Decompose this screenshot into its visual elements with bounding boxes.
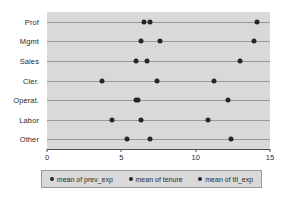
category-gridline xyxy=(47,22,270,23)
legend-entry: mean of prev_exp xyxy=(50,176,113,183)
x-axis-tick xyxy=(47,149,48,152)
category-gridline xyxy=(47,139,270,140)
legend-label: mean of tenure xyxy=(136,176,183,183)
x-axis-tick-label: 5 xyxy=(119,153,123,162)
x-axis-tick xyxy=(270,149,271,152)
chart-legend: mean of prev_expmean of tenuremean of tt… xyxy=(41,170,262,188)
legend-label: mean of ttl_exp xyxy=(205,176,253,183)
y-axis-tick-label: Mgmt xyxy=(20,37,39,46)
legend-label: mean of prev_exp xyxy=(57,176,113,183)
category-gridline xyxy=(47,41,270,42)
y-axis-tick-label: Prof xyxy=(25,17,39,26)
category-gridline xyxy=(47,120,270,121)
legend-marker-icon xyxy=(198,177,202,181)
y-axis-tick-label: Sales xyxy=(20,56,39,65)
x-axis-line xyxy=(47,149,270,150)
x-axis-tick-label: 0 xyxy=(45,153,49,162)
x-axis-tick-label: 10 xyxy=(191,153,199,162)
category-gridline xyxy=(47,61,270,62)
category-gridline xyxy=(47,100,270,101)
legend-marker-icon xyxy=(50,177,54,181)
legend-marker-icon xyxy=(129,177,133,181)
legend-entry: mean of ttl_exp xyxy=(198,176,253,183)
dot-chart-figure: ProfMgmtSalesCler.Operat.LaborOther mean… xyxy=(0,0,303,197)
y-axis-tick-label: Other xyxy=(20,135,39,144)
x-axis-tick xyxy=(121,149,122,152)
category-gridline xyxy=(47,81,270,82)
x-axis-tick xyxy=(195,149,196,152)
y-axis-tick-label: Operat. xyxy=(13,96,39,105)
y-axis-tick-label: Cler. xyxy=(23,76,39,85)
legend-entry: mean of tenure xyxy=(129,176,183,183)
y-axis-labels: ProfMgmtSalesCler.Operat.LaborOther xyxy=(0,12,43,149)
y-axis-tick-label: Labor xyxy=(19,115,39,124)
x-axis-tick-label: 15 xyxy=(266,153,274,162)
plot-area xyxy=(47,12,270,149)
